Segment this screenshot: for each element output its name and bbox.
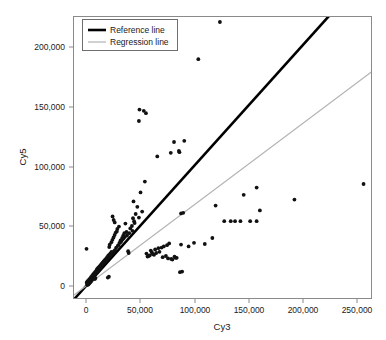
y-tick-label: 200,000: [34, 42, 65, 52]
y-axis-tick-labels: 200,000 150,000 100,000 50,000 0: [34, 42, 65, 291]
y-tick-label: 100,000: [34, 162, 65, 172]
data-point: [203, 242, 207, 246]
data-point: [135, 0, 139, 2]
data-point: [177, 149, 181, 153]
data-point: [362, 182, 366, 186]
data-point: [117, 225, 121, 229]
data-point: [181, 211, 185, 215]
x-tick-label: 100,000: [180, 305, 211, 315]
data-point: [180, 270, 184, 274]
data-point: [172, 140, 176, 144]
data-point: [154, 251, 158, 255]
data-point: [139, 0, 143, 2]
x-axis-tick-labels: 0 50,000 100,000 150,000 200,000 250,000: [84, 305, 373, 315]
data-point: [239, 219, 243, 223]
data-point: [139, 191, 143, 195]
data-point: [153, 248, 157, 252]
x-axis-title: Cy3: [214, 321, 231, 332]
data-point: [167, 242, 171, 246]
data-point: [242, 193, 246, 197]
data-point: [229, 219, 233, 223]
data-point: [107, 275, 111, 279]
data-point: [137, 119, 141, 123]
data-point: [94, 276, 98, 280]
data-point: [148, 254, 152, 258]
data-point: [140, 210, 144, 214]
data-point: [137, 216, 141, 220]
x-tick-label: 50,000: [127, 305, 153, 315]
data-point: [218, 20, 222, 24]
data-point: [141, 0, 145, 2]
x-tick-label: 250,000: [342, 305, 373, 315]
data-point: [248, 219, 252, 223]
x-axis-ticks: [86, 299, 357, 304]
data-point: [169, 257, 173, 261]
data-point: [113, 221, 117, 225]
legend-label-reference-line: Reference line: [110, 25, 165, 35]
data-point: [85, 247, 89, 251]
data-point: [162, 245, 166, 249]
data-point: [155, 155, 159, 159]
data-point: [144, 111, 148, 115]
data-point: [255, 186, 259, 190]
data-point: [214, 204, 218, 208]
scatter-plot-figure: 200,000 150,000 100,000 50,000 0 0 50,00…: [0, 0, 386, 340]
data-point: [133, 221, 137, 225]
y-tick-label: 150,000: [34, 102, 65, 112]
data-point: [222, 219, 226, 223]
data-point: [138, 108, 142, 112]
data-point: [130, 224, 134, 228]
data-point: [110, 250, 114, 254]
data-point: [135, 205, 139, 209]
data-point: [166, 257, 170, 261]
data-point: [196, 57, 200, 61]
legend: Reference line Regression line: [83, 20, 178, 51]
data-point: [258, 209, 262, 213]
x-tick-label: 0: [84, 305, 89, 315]
x-tick-label: 200,000: [288, 305, 319, 315]
data-point: [149, 249, 153, 253]
y-axis-ticks: [69, 47, 74, 286]
data-point: [192, 241, 196, 245]
data-point: [187, 245, 191, 249]
plot-svg: 200,000 150,000 100,000 50,000 0 0 50,00…: [0, 0, 386, 340]
data-point: [182, 139, 186, 143]
data-point: [161, 255, 165, 259]
data-point: [122, 231, 126, 235]
y-tick-label: 0: [60, 281, 65, 291]
x-tick-label: 150,000: [234, 305, 265, 315]
data-point: [293, 198, 297, 202]
data-point: [124, 222, 128, 226]
data-point: [169, 151, 173, 155]
y-axis-title: Cy5: [17, 149, 28, 166]
data-point: [210, 236, 214, 240]
data-point: [151, 252, 155, 256]
legend-label-regression-line: Regression line: [110, 37, 169, 47]
data-point: [158, 250, 162, 254]
data-point: [233, 219, 237, 223]
data-point: [111, 215, 115, 219]
data-point: [132, 200, 136, 204]
data-point: [156, 246, 160, 250]
y-tick-label: 50,000: [39, 221, 65, 231]
regression-line: [73, 66, 380, 296]
data-point: [143, 180, 147, 184]
data-point: [255, 219, 259, 223]
plot-frame: [74, 17, 372, 299]
data-point: [134, 212, 138, 216]
data-point: [131, 216, 135, 220]
data-point: [179, 243, 183, 247]
data-point: [175, 256, 179, 260]
data-point: [127, 251, 131, 255]
